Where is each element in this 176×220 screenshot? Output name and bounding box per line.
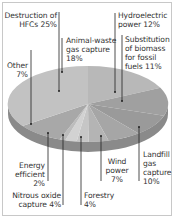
label-hydroelectric: Hydroelectric power 12% xyxy=(118,11,167,29)
label-animal-waste: Animal-waste gas capture 18% xyxy=(66,36,116,63)
label-biomass: Substitution of biomass for fossil fuels… xyxy=(125,35,170,71)
label-landfill: Landfill gas capture 10% xyxy=(143,150,171,186)
pie-slices xyxy=(8,66,168,142)
label-wind: Wind power 7% xyxy=(105,157,129,184)
label-forestry: Forestry 4% xyxy=(84,191,114,209)
label-nitrous: Nitrous oxide capture 4% xyxy=(12,191,61,209)
label-hfc: Destruction of HFCs 25% xyxy=(5,11,57,29)
label-energy: Energy efficient 2% xyxy=(15,161,45,188)
label-other: Other 7% xyxy=(7,61,28,79)
